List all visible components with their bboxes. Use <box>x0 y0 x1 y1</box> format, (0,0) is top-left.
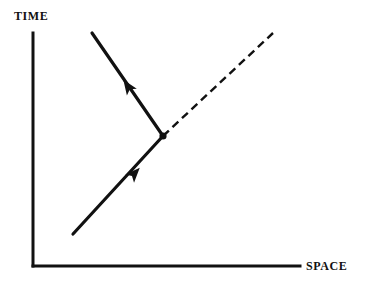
axes-group <box>33 33 300 266</box>
worldlines-group <box>73 33 273 234</box>
x-axis-label: SPACE <box>306 260 347 272</box>
interaction-vertex-dot <box>159 132 166 139</box>
incoming-worldline <box>73 136 163 234</box>
y-axis-label: TIME <box>14 10 48 22</box>
spacetime-diagram-figure: TIME SPACE <box>0 0 369 298</box>
dashed-worldline <box>163 33 273 136</box>
diagram-canvas <box>0 0 369 298</box>
